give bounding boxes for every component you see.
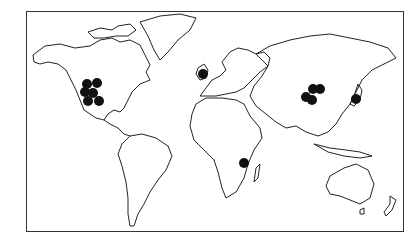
madagascar-outline [254,164,260,182]
world-map [0,0,419,238]
tasmania-outline [360,208,364,214]
location-marker-china [307,95,317,105]
europe-outline [200,48,270,96]
location-marker-east-africa [239,158,249,168]
south-america-outline [118,134,172,226]
new-zealand-outline [384,196,396,216]
location-marker-british-isles [198,69,208,79]
location-marker-north-america-west [92,78,102,88]
greenland-outline [140,14,196,60]
australia-outline [326,164,374,204]
north-america-outline [33,38,150,120]
arctic-islands-outline [88,24,136,38]
africa-outline [190,98,262,198]
continent-outlines [33,14,396,226]
location-markers [80,69,361,168]
central-america-outline [104,120,130,136]
location-marker-china [315,84,325,94]
location-marker-japan [351,94,361,104]
location-marker-north-america-west [83,96,93,106]
location-marker-north-america-west [94,96,104,106]
southeast-asia-islands-outline [314,144,372,158]
